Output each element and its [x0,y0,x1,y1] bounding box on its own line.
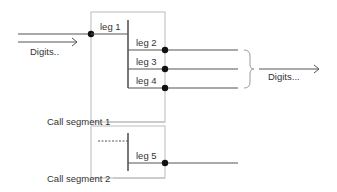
input-digits-label: Digits.. [30,46,59,57]
output-digits-label: Digits... [268,71,300,82]
leg-3-label: leg 3 [136,56,157,67]
leg-4-node [162,85,168,91]
call-segment-2-label: Call segment 2 [47,173,110,184]
leg-2-node [162,47,168,53]
leg-2-label: leg 2 [136,37,157,48]
brace-icon [244,50,254,88]
call-segment-diagram: Digits.. leg 1 leg 2 leg 3 leg 4 Digits.… [0,0,337,192]
call-segment-1-label: Call segment 1 [47,116,110,127]
leg-4-label: leg 4 [136,75,157,86]
leg-5-label: leg 5 [136,150,157,161]
leg-1-label: leg 1 [100,21,121,32]
leg-3-node [162,66,168,72]
leg-5-node [162,160,168,166]
